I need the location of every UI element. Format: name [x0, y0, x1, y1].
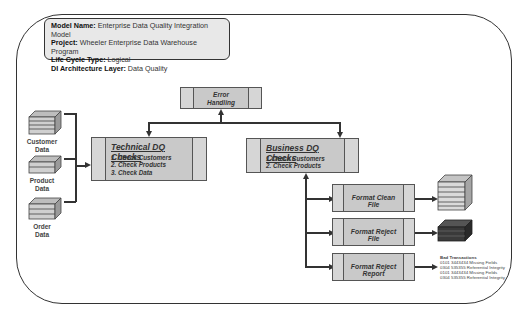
connector	[305, 266, 330, 268]
order-data-icon	[27, 197, 63, 221]
connector	[75, 113, 77, 202]
error-handling-process[interactable]: ErrorHandling	[180, 87, 262, 109]
connector	[415, 232, 433, 234]
connector	[305, 232, 330, 234]
connector	[415, 266, 433, 268]
connector	[305, 178, 307, 266]
model-info-box: Model Name: Enterprise Data Quality Inte…	[44, 18, 230, 60]
format-reject-file-process[interactable]: Format Reject File	[332, 218, 415, 246]
order-data-label: OrderData	[22, 223, 62, 238]
customer-data-icon	[27, 110, 63, 136]
technical-dq-checks-process[interactable]: Technical DQ Checks 1. Check Customers 2…	[91, 137, 207, 181]
customer-data-label: CustomerData	[22, 138, 62, 153]
business-dq-checks-process[interactable]: Business DQ Checks 1.Check Customers 2. …	[246, 138, 359, 173]
connector	[305, 198, 330, 200]
bad-transactions-report: Bad Transactions 0101 3443434 Missing Fi…	[440, 255, 505, 280]
connector	[339, 122, 341, 132]
layer-label: DI Architecture Layer:	[51, 64, 126, 73]
product-data-icon	[27, 155, 63, 175]
connector	[148, 122, 340, 124]
product-data-label: ProductData	[22, 177, 62, 192]
connector	[75, 165, 85, 167]
layer-value: Data Quality	[128, 64, 168, 73]
connector	[415, 198, 433, 200]
arrow-right-icon	[432, 264, 438, 270]
clean-file-icon	[436, 174, 474, 212]
format-clean-file-process[interactable]: Format Clean File	[332, 184, 415, 212]
format-reject-report-process[interactable]: Format Reject Report	[332, 253, 415, 281]
reject-file-icon	[436, 219, 474, 243]
connector	[148, 122, 150, 131]
